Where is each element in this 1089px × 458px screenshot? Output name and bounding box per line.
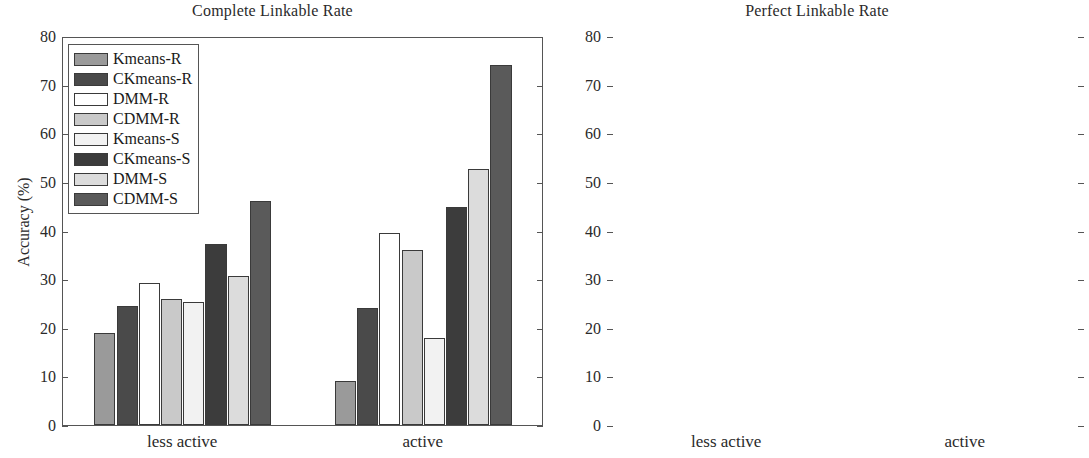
legend-row: Kmeans-S: [74, 129, 192, 149]
legend-swatch-icon: [74, 73, 108, 86]
y-tick-label: 30: [567, 272, 601, 288]
y-tick-label: 80: [567, 29, 601, 45]
legend-swatch-icon: [74, 53, 108, 66]
panel-complete-linkable-rate: Complete Linkable Rate Accuracy (%) 0102…: [0, 0, 545, 458]
bar: [379, 233, 400, 425]
y-tick-mark: [537, 134, 543, 135]
legend-label: CKmeans-S: [113, 151, 190, 167]
y-tick-label: 0: [567, 418, 601, 434]
y-tick-mark: [62, 426, 68, 427]
y-tick-label: 40: [567, 224, 601, 240]
bar: [357, 308, 378, 425]
legend-row: CKmeans-R: [74, 69, 192, 89]
y-tick-mark: [607, 134, 613, 135]
x-tick-label: less active: [112, 432, 252, 452]
y-tick-mark: [62, 37, 68, 38]
y-tick-label: 50: [22, 175, 56, 191]
legend-swatch-icon: [74, 113, 108, 126]
y-tick-label: 20: [567, 321, 601, 337]
legend: Kmeans-RCKmeans-RDMM-RCDMM-RKmeans-SCKme…: [68, 44, 199, 214]
bar: [139, 283, 160, 425]
y-tick-mark: [607, 37, 613, 38]
y-tick-mark: [62, 329, 68, 330]
y-tick-label: 30: [22, 272, 56, 288]
bar: [183, 302, 204, 425]
bar: [335, 381, 356, 425]
x-tick-label: less active: [656, 432, 796, 452]
y-tick-mark: [537, 329, 543, 330]
y-tick-mark: [62, 377, 68, 378]
y-tick-mark: [537, 232, 543, 233]
y-tick-label: 70: [567, 78, 601, 94]
y-tick-label: 0: [22, 418, 56, 434]
panel-title: Perfect Linkable Rate: [545, 2, 1089, 20]
x-tick-label: active: [895, 432, 1035, 452]
y-tick-label: 60: [22, 126, 56, 142]
bar: [117, 306, 138, 425]
bar: [94, 333, 115, 425]
y-tick-mark: [1078, 377, 1084, 378]
x-tick-label: active: [353, 432, 493, 452]
y-tick-mark: [1078, 134, 1084, 135]
y-tick-mark: [1078, 329, 1084, 330]
y-tick-label: 10: [567, 369, 601, 385]
y-tick-mark: [1078, 280, 1084, 281]
legend-row: CDMM-R: [74, 109, 192, 129]
bar: [424, 338, 445, 425]
legend-swatch-icon: [74, 193, 108, 206]
y-tick-mark: [607, 232, 613, 233]
y-tick-mark: [537, 86, 543, 87]
legend-swatch-icon: [74, 173, 108, 186]
figure-two-panel-bar-charts: Complete Linkable Rate Accuracy (%) 0102…: [0, 0, 1089, 458]
y-tick-mark: [62, 280, 68, 281]
y-tick-mark: [607, 86, 613, 87]
bar: [402, 250, 423, 425]
y-tick-mark: [537, 426, 543, 427]
y-tick-mark: [607, 426, 613, 427]
y-tick-label: 40: [22, 224, 56, 240]
y-tick-mark: [1078, 86, 1084, 87]
bar: [161, 299, 182, 425]
y-tick-label: 80: [22, 29, 56, 45]
legend-label: Kmeans-S: [113, 131, 180, 147]
legend-label: Kmeans-R: [113, 51, 181, 67]
legend-row: Kmeans-R: [74, 49, 192, 69]
legend-label: DMM-S: [113, 171, 167, 187]
bar: [205, 244, 226, 425]
bar: [228, 276, 249, 425]
y-tick-mark: [537, 377, 543, 378]
legend-row: CDMM-S: [74, 189, 192, 209]
y-tick-mark: [607, 280, 613, 281]
y-tick-mark: [537, 280, 543, 281]
y-tick-mark: [62, 232, 68, 233]
y-tick-mark: [1078, 37, 1084, 38]
y-tick-label: 20: [22, 321, 56, 337]
legend-label: CKmeans-R: [113, 71, 192, 87]
panel-perfect-linkable-rate: Perfect Linkable Rate Accuracy (%) 01020…: [545, 0, 1089, 458]
y-tick-mark: [1078, 232, 1084, 233]
bar: [250, 201, 271, 425]
legend-label: CDMM-R: [113, 111, 180, 127]
bar: [490, 65, 511, 425]
y-tick-mark: [607, 329, 613, 330]
y-tick-mark: [1078, 183, 1084, 184]
legend-swatch-icon: [74, 153, 108, 166]
y-tick-mark: [607, 377, 613, 378]
y-tick-mark: [607, 183, 613, 184]
y-tick-mark: [537, 183, 543, 184]
bar: [468, 169, 489, 425]
y-tick-label: 50: [567, 175, 601, 191]
legend-label: DMM-R: [113, 91, 169, 107]
panel-title: Complete Linkable Rate: [0, 2, 545, 20]
legend-row: CKmeans-S: [74, 149, 192, 169]
legend-swatch-icon: [74, 93, 108, 106]
y-tick-mark: [1078, 426, 1084, 427]
legend-row: DMM-S: [74, 169, 192, 189]
y-tick-mark: [537, 37, 543, 38]
y-tick-label: 10: [22, 369, 56, 385]
legend-label: CDMM-S: [113, 191, 178, 207]
y-tick-label: 60: [567, 126, 601, 142]
bar: [446, 207, 467, 425]
y-tick-label: 70: [22, 78, 56, 94]
legend-row: DMM-R: [74, 89, 192, 109]
